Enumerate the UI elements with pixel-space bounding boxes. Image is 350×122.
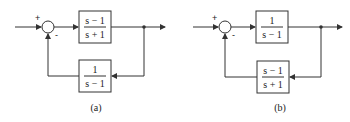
- forward-denominator: s − 1: [262, 29, 282, 40]
- diagram-a: + - s − 1 s + 1 1 s − 1 (a): [15, 11, 165, 114]
- forward-denominator: s + 1: [85, 29, 105, 40]
- plus-sign: +: [212, 13, 217, 23]
- feedback-path-in: [290, 27, 321, 77]
- feedback-denominator: s + 1: [263, 79, 283, 90]
- feedback-numerator: 1: [93, 64, 98, 75]
- minus-sign: -: [232, 30, 235, 40]
- feedback-numerator: s − 1: [263, 65, 283, 76]
- summing-junction: [42, 21, 54, 33]
- forward-numerator: s − 1: [85, 15, 105, 26]
- block-diagrams: + - s − 1 s + 1 1 s − 1 (a) + - 1 s − 1 …: [0, 0, 350, 122]
- forward-numerator: 1: [270, 15, 275, 26]
- feedback-denominator: s − 1: [85, 78, 105, 89]
- caption-a: (a): [90, 102, 101, 114]
- feedback-path-in: [112, 27, 144, 76]
- feedback-path-out: [225, 34, 257, 77]
- caption-b: (b): [274, 102, 286, 114]
- minus-sign: -: [55, 30, 58, 40]
- summing-junction: [219, 21, 231, 33]
- diagram-b: + - 1 s − 1 s − 1 s + 1 (b): [193, 11, 342, 114]
- feedback-path-out: [48, 34, 79, 76]
- plus-sign: +: [35, 13, 40, 23]
